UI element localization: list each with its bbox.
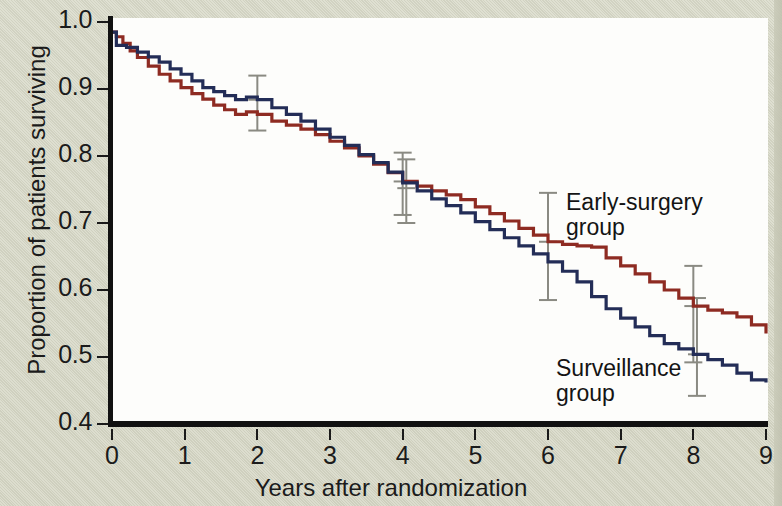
error-bar	[539, 193, 557, 300]
y-tick-0.9	[97, 88, 108, 90]
x-tick-1	[184, 429, 186, 440]
x-tick-0	[111, 429, 113, 440]
y-axis-line	[108, 16, 113, 427]
x-tick-7	[620, 429, 622, 440]
y-tick-0.8	[97, 155, 108, 157]
x-tick-label-4: 4	[383, 441, 423, 470]
page-edge-strip	[774, 0, 782, 506]
error-bar	[248, 76, 266, 131]
y-axis-title: Proportion of patients surviving	[23, 10, 51, 410]
x-tick-label-8: 8	[673, 441, 713, 470]
x-axis-line	[108, 421, 768, 427]
x-tick-6	[547, 429, 549, 440]
x-tick-3	[329, 429, 331, 440]
x-tick-label-2: 2	[237, 441, 277, 470]
x-tick-label-5: 5	[455, 441, 495, 470]
x-tick-8	[692, 429, 694, 440]
y-tick-label-0.4: 0.4	[28, 407, 92, 436]
early-surgery-label: Early-surgery group	[566, 190, 703, 240]
surveillance-label: Surveillance group	[556, 356, 681, 406]
survival-curve-figure: 1.00.90.80.70.60.50.4 0123456789 Proport…	[0, 0, 782, 506]
x-tick-5	[474, 429, 476, 440]
error-bar	[397, 159, 415, 223]
x-tick-9	[765, 429, 767, 440]
y-tick-0.6	[97, 289, 108, 291]
x-axis-title: Years after randomization	[0, 474, 782, 502]
y-tick-0.5	[97, 356, 108, 358]
x-tick-label-1: 1	[165, 441, 205, 470]
x-tick-2	[256, 429, 258, 440]
x-tick-label-0: 0	[92, 441, 132, 470]
y-tick-0.4	[97, 423, 108, 425]
y-tick-1.0	[97, 21, 108, 23]
x-tick-label-7: 7	[601, 441, 641, 470]
error-bar	[688, 298, 706, 396]
y-tick-0.7	[97, 222, 108, 224]
chart-canvas	[0, 0, 782, 506]
x-tick-4	[402, 429, 404, 440]
x-tick-label-3: 3	[310, 441, 350, 470]
series-line-early-surgery-group	[112, 32, 766, 334]
x-tick-label-6: 6	[528, 441, 568, 470]
